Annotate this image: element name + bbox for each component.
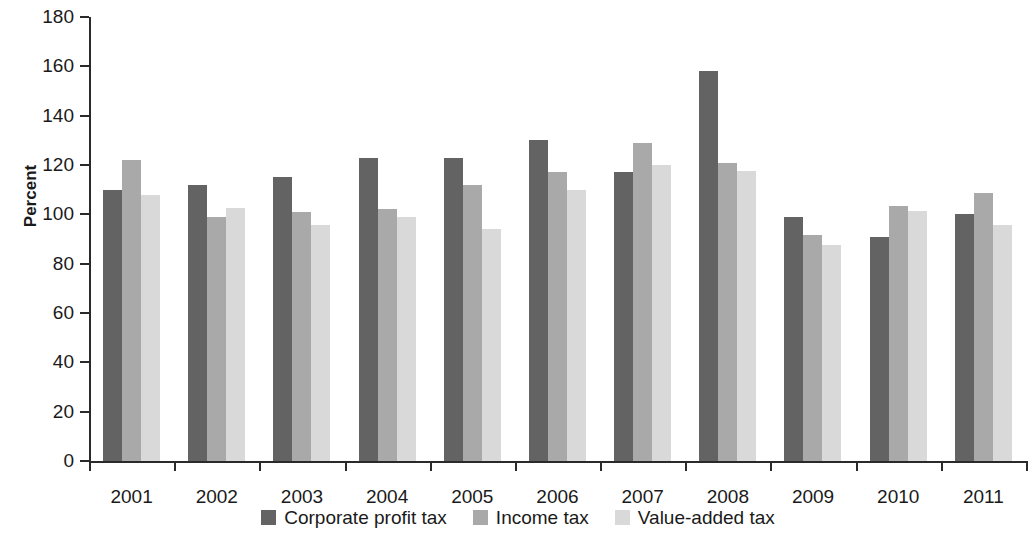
bar	[359, 158, 378, 461]
bar	[955, 214, 974, 461]
y-axis-tick-label: 60	[4, 303, 74, 322]
bar	[397, 217, 416, 461]
y-axis-tick-label: 80	[4, 254, 74, 273]
bar	[822, 245, 841, 461]
bar	[889, 206, 908, 461]
bar	[699, 71, 718, 461]
bar	[567, 190, 586, 461]
bar	[974, 193, 993, 461]
legend-swatch-icon	[473, 510, 488, 525]
bar-group	[273, 17, 330, 461]
x-axis-tick	[941, 461, 943, 471]
bar-group	[699, 17, 756, 461]
x-axis-tick	[600, 461, 602, 471]
legend-item: Value-added tax	[615, 508, 775, 527]
bar-group	[870, 17, 927, 461]
bar-group	[955, 17, 1012, 461]
bar-group	[188, 17, 245, 461]
bar-group	[444, 17, 501, 461]
bar	[614, 172, 633, 461]
bar	[633, 143, 652, 461]
y-axis-tick	[80, 213, 89, 215]
bar	[803, 235, 822, 461]
y-axis-tick-label: 120	[4, 155, 74, 174]
x-axis-tick	[515, 461, 517, 471]
bar	[718, 163, 737, 461]
y-axis-tick	[80, 361, 89, 363]
bar	[378, 209, 397, 461]
legend-label: Corporate profit tax	[284, 508, 447, 527]
bar	[122, 160, 141, 461]
y-axis-tick	[80, 263, 89, 265]
bar-group	[614, 17, 671, 461]
x-axis-tick	[259, 461, 261, 471]
y-axis-tick	[80, 16, 89, 18]
y-axis-tick-label: 100	[4, 204, 74, 223]
bar	[141, 195, 160, 461]
x-axis-tick	[430, 461, 432, 471]
bar	[908, 211, 927, 461]
bar	[207, 217, 226, 461]
bar	[226, 208, 245, 461]
y-axis-labels: 020406080100120140160180	[0, 17, 74, 462]
bar-group	[529, 17, 586, 461]
bar-group	[103, 17, 160, 461]
y-axis-tick	[80, 460, 89, 462]
y-axis-line	[89, 17, 91, 462]
x-axis-tick	[685, 461, 687, 471]
legend-label: Value-added tax	[638, 508, 775, 527]
y-axis-tick	[80, 312, 89, 314]
y-axis-tick-label: 140	[4, 106, 74, 125]
legend-item: Corporate profit tax	[261, 508, 447, 527]
bar	[529, 140, 548, 461]
x-axis-tick	[174, 461, 176, 471]
bar-group	[359, 17, 416, 461]
y-axis-tick	[80, 65, 89, 67]
legend-item: Income tax	[473, 508, 589, 527]
y-axis-tick-label: 160	[4, 56, 74, 75]
x-axis-tick	[89, 461, 91, 471]
x-axis-category-label: 2011	[923, 487, 1036, 507]
legend-swatch-icon	[615, 510, 630, 525]
bar	[993, 225, 1012, 461]
x-axis-tick	[345, 461, 347, 471]
bar-chart: Percent 020406080100120140160180 2001200…	[0, 0, 1036, 537]
y-axis-tick	[80, 115, 89, 117]
y-axis-tick	[80, 164, 89, 166]
x-axis-tick	[1026, 461, 1028, 471]
x-axis-line	[89, 461, 1026, 463]
x-axis-tick	[770, 461, 772, 471]
y-axis-tick-label: 0	[4, 451, 74, 470]
plot-area: 2001200220032004200520062007200820092010…	[89, 17, 1026, 461]
y-axis-tick-label: 40	[4, 352, 74, 371]
y-axis-tick-label: 20	[4, 402, 74, 421]
bar	[273, 177, 292, 461]
legend-label: Income tax	[496, 508, 589, 527]
bar	[188, 185, 207, 461]
y-axis-tick-label: 180	[4, 7, 74, 26]
bar	[311, 225, 330, 461]
bar-group	[784, 17, 841, 461]
bar	[292, 212, 311, 461]
bar	[737, 171, 756, 461]
bar	[870, 237, 889, 461]
x-axis-tick	[856, 461, 858, 471]
bar	[463, 185, 482, 461]
bar	[784, 217, 803, 461]
y-axis-tick	[80, 411, 89, 413]
bar	[548, 172, 567, 461]
bar	[652, 165, 671, 461]
chart-legend: Corporate profit taxIncome taxValue-adde…	[0, 508, 1036, 527]
bar	[482, 229, 501, 461]
bar	[103, 190, 122, 461]
legend-swatch-icon	[261, 510, 276, 525]
bar	[444, 158, 463, 461]
